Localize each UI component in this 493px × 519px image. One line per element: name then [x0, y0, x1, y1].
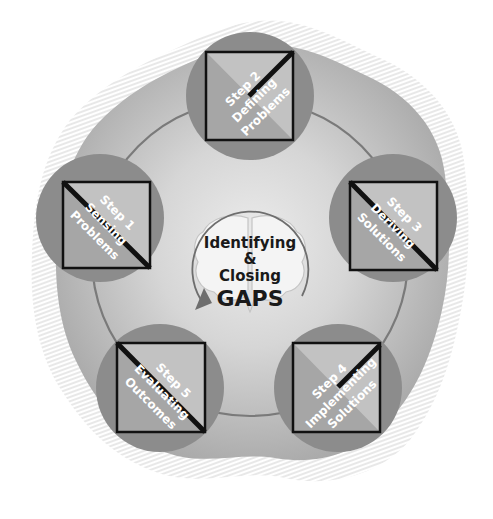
gaps-cycle-diagram: Identifying & Closing GAPS Step 2 Defini… — [0, 0, 493, 519]
center-label-ampersand: & — [243, 250, 256, 268]
step-2-node[interactable]: Step 2 Defining Problems — [186, 32, 314, 160]
step-1-node[interactable]: Step 1 Sensing Problems — [36, 154, 164, 282]
step-5-node[interactable]: Step 5 Evaluating Outcomes — [96, 324, 224, 452]
center-label-closing: Closing — [219, 267, 281, 285]
center-label-gaps: GAPS — [216, 286, 283, 311]
step-4-node[interactable]: Step 4 Implementing Solutions — [274, 324, 402, 452]
step-3-node[interactable]: Step 3 Deriving Solutions — [329, 154, 457, 282]
